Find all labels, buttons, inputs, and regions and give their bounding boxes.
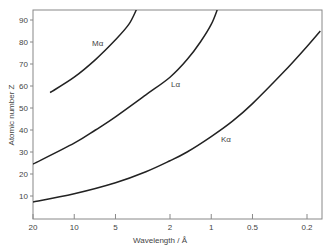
y-tick-label: 70 [19,60,28,69]
moseley-chart: 102030405060708090 20105210.50.2 KαLαMα … [0,0,334,247]
series-labels: KαLαMα [92,39,231,144]
x-tick-label: 20 [29,223,38,232]
y-tick-label: 60 [19,82,28,91]
x-tick-label: 10 [70,223,79,232]
x-tick-label: 0.5 [247,223,259,232]
series-label: Mα [92,39,104,48]
curve-Mα [50,9,137,93]
x-tick-label: 1 [209,223,214,232]
x-axis-label: Wavelength / Å [133,236,188,245]
y-tick-label: 30 [19,148,28,157]
y-tick-label: 20 [19,170,28,179]
y-tick-label: 90 [19,16,28,25]
y-axis-ticks: 102030405060708090 [19,16,33,201]
y-tick-label: 10 [19,192,28,201]
series-label: Lα [171,80,180,89]
y-tick-label: 80 [19,38,28,47]
plot-frame [33,10,322,219]
x-tick-label: 2 [168,223,173,232]
series-label: Kα [221,135,231,144]
series-curves [33,9,320,202]
y-axis-label: Atomic number Z [7,84,16,145]
curve-Kα [33,31,320,202]
y-tick-label: 50 [19,104,28,113]
x-tick-label: 0.2 [301,223,313,232]
x-tick-label: 5 [113,223,118,232]
x-axis-ticks: 20105210.50.2 [29,214,314,232]
y-tick-label: 40 [19,126,28,135]
